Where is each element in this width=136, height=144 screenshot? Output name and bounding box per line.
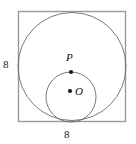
point-p-label: P [66, 52, 73, 63]
bottom-side-length-label: 8 [64, 129, 70, 140]
point-p-dot [69, 70, 73, 74]
point-o-dot [68, 89, 72, 93]
large-circle-shape [18, 13, 126, 121]
geometry-figure: 8 8 P O [0, 0, 136, 144]
point-o-label: O [75, 86, 83, 97]
left-side-length-label: 8 [3, 59, 9, 70]
figure-canvas [0, 0, 136, 144]
small-circle-shape [46, 72, 96, 122]
